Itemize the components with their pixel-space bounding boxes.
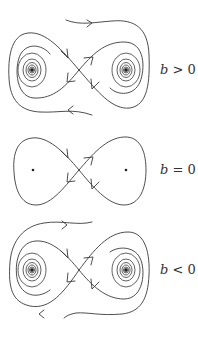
label-b-positive: b > 0	[160, 62, 196, 77]
label-b-zero: b = 0	[160, 162, 196, 177]
focus-spiral-left	[18, 53, 46, 87]
panel-b-positive	[9, 20, 149, 115]
outer-trajectory-bottom	[9, 33, 92, 115]
homoclinic-loop-left	[14, 138, 79, 205]
arrow-down-left-icon	[67, 173, 75, 182]
separatrix-inner-left	[16, 241, 79, 295]
focus-spiral-right	[112, 53, 140, 87]
focus-spiral-left	[18, 253, 46, 287]
center-point-left	[32, 169, 35, 172]
arrow-up-right-icon	[84, 57, 93, 65]
label-relation: > 0	[168, 62, 195, 77]
center-point-right	[125, 169, 128, 172]
outer-trajectory-bottom	[64, 232, 149, 318]
arrow-left-icon	[68, 106, 73, 114]
outer-trajectory-top	[66, 20, 149, 108]
panel-b-zero	[14, 137, 146, 205]
arrow-left-icon	[39, 310, 44, 318]
arrow-down-left-icon	[67, 73, 75, 82]
focus-spiral-right	[112, 253, 140, 287]
label-relation: = 0	[168, 162, 195, 177]
label-b-negative: b < 0	[160, 262, 196, 277]
homoclinic-loop-right	[79, 137, 146, 205]
outer-trajectory-top	[10, 222, 92, 307]
label-relation: < 0	[168, 262, 195, 277]
panel-b-negative	[10, 221, 150, 318]
arrow-up-left-icon	[91, 179, 99, 189]
separatrix-inner-right	[79, 42, 143, 93]
arrow-up-right-icon	[84, 157, 93, 165]
